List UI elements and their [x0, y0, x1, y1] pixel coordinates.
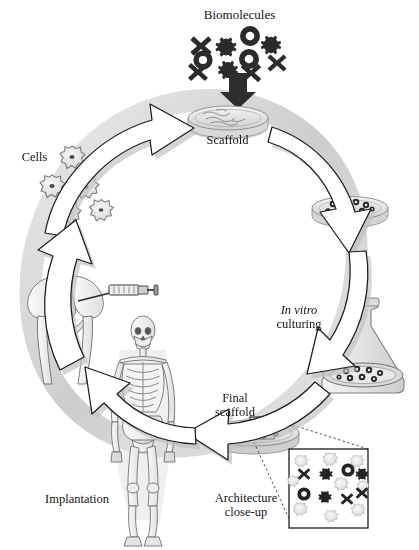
label-implantation: Implantation [32, 492, 122, 506]
final-scaffold-line1: Final [222, 391, 248, 405]
architecture-line1: Architecture [215, 491, 277, 505]
in-vitro-italic-text: In vitro [281, 303, 318, 317]
label-biomolecules: Biomolecules [187, 8, 292, 23]
ring-icon [239, 49, 259, 69]
final-scaffold-line2: scaffold [215, 405, 255, 419]
culturing-text: culturing [276, 317, 321, 331]
ring-icon [193, 50, 212, 69]
label-in-vitro-culturing: In vitro culturing [262, 303, 336, 331]
label-scaffold: Scaffold [185, 133, 270, 147]
figure-canvas: Biomolecules Scaffold In vitro culturing… [0, 0, 419, 550]
architecture-line2: close-up [225, 505, 267, 519]
tissue-engineering-cycle-diagram [0, 0, 419, 550]
label-architecture-closeup: Architecture close-up [203, 491, 289, 519]
label-cells: Cells [12, 150, 57, 164]
architecture-closeup-box [287, 449, 370, 528]
ring-icon [240, 26, 260, 46]
label-final-scaffold: Final scaffold [200, 391, 270, 419]
